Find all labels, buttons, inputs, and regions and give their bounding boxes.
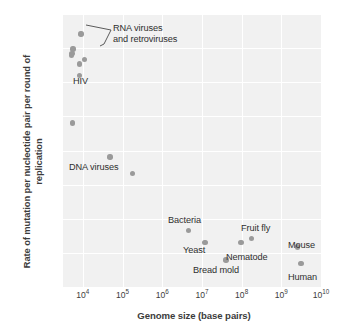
gridline-horizontal bbox=[63, 116, 321, 117]
hiv-label: HIV bbox=[73, 76, 88, 87]
human-label: Human bbox=[288, 272, 317, 283]
mutation-rate-scatter-chart: Rate of mutation per nucleotide pair per… bbox=[0, 0, 338, 332]
gridline-horizontal bbox=[63, 82, 321, 83]
gridline-vertical bbox=[162, 14, 163, 287]
data-point-nematode bbox=[238, 240, 243, 245]
x-axis-tick-label: 106 bbox=[142, 290, 182, 300]
gridline-vertical bbox=[321, 14, 322, 287]
x-axis-tick-label: 107 bbox=[182, 290, 222, 300]
x-axis-tick-label: 104 bbox=[63, 290, 103, 300]
nematode-label: Nematode bbox=[226, 252, 268, 263]
yeast-label: Yeast bbox=[183, 245, 205, 256]
x-axis-title: Genome size (base pairs) bbox=[63, 310, 325, 321]
bacteria-label: Bacteria bbox=[168, 215, 201, 226]
gridline-horizontal bbox=[63, 151, 321, 152]
data-point-dna-virus-2 bbox=[107, 154, 112, 159]
gridline-horizontal bbox=[63, 48, 321, 49]
gridline-vertical bbox=[123, 14, 124, 287]
data-point-human bbox=[298, 261, 303, 266]
fruit-fly-label: Fruit fly bbox=[241, 223, 270, 234]
gridline-horizontal bbox=[63, 287, 321, 288]
data-point-dna-virus-1 bbox=[70, 120, 75, 125]
gridline-vertical bbox=[281, 14, 282, 287]
gridline-vertical bbox=[83, 14, 84, 287]
x-axis-tick-label: 1010 bbox=[301, 290, 338, 300]
x-axis-tick-label: 108 bbox=[222, 290, 262, 300]
x-axis-tick-label: 109 bbox=[261, 290, 301, 300]
gridline-horizontal bbox=[63, 14, 321, 15]
mouse-label: Mouse bbox=[288, 240, 315, 251]
x-axis-tick-label: 105 bbox=[103, 290, 143, 300]
y-axis-title: Rate of mutation per nucleotide pair per… bbox=[21, 37, 44, 287]
gridline-horizontal bbox=[63, 185, 321, 186]
dna-viruses-label: DNA viruses bbox=[69, 162, 118, 173]
data-point-rna-virus-1 bbox=[78, 31, 83, 36]
bread-mold-label: Bread mold bbox=[193, 265, 239, 276]
gridline-vertical bbox=[242, 14, 243, 287]
rna-viruses-label: RNA viruses and retroviruses bbox=[113, 23, 177, 45]
